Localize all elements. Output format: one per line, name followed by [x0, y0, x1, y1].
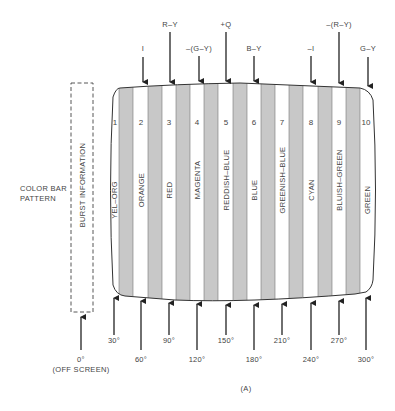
bar-name-yel-org: YEL–ORG	[110, 181, 119, 219]
angle-sublabel-off-screen: (OFF SCREEN)	[53, 365, 110, 374]
bar-name-cyan: CYAN	[307, 179, 316, 200]
bar-number: 9	[337, 118, 342, 127]
bar-number: 2	[139, 118, 144, 127]
top-signal-arrows	[143, 32, 368, 86]
signal-label-b-y: B–Y	[246, 44, 261, 53]
angle-label-240: 240°	[303, 355, 320, 364]
bar-number: 1	[113, 118, 118, 127]
bar-name-magenta: MAGENTA	[193, 161, 202, 200]
angle-label-150: 150°	[218, 336, 235, 345]
signal-label-neg-r-y: –(R–Y)	[326, 20, 352, 29]
bar-name-greenish-blue: GREENISH–BLUE	[278, 147, 287, 214]
bar-number: 5	[224, 118, 229, 127]
bar-name-red: RED	[165, 181, 174, 198]
figure-caption: (A)	[241, 384, 252, 393]
side-label-line2: PATTERN	[20, 194, 56, 203]
bar-name-orange: ORANGE	[137, 173, 146, 207]
angle-label-0: 0°	[77, 355, 85, 364]
bar-name-green: GREEN	[363, 186, 372, 214]
bar-number: 3	[167, 118, 172, 127]
side-label-line1: COLOR BAR	[20, 184, 67, 193]
bar-name-bluish-green: BLUISH–GREEN	[335, 149, 344, 211]
signal-label-g-y: G–Y	[360, 44, 376, 53]
angle-label-90: 90°	[163, 336, 175, 345]
bar-number: 6	[252, 118, 257, 127]
angle-label-180: 180°	[246, 355, 263, 364]
angle-label-270: 270°	[331, 336, 348, 345]
bar-number: 7	[280, 118, 285, 127]
bar-number: 10	[362, 118, 371, 127]
signal-label-neg-i: –I	[308, 44, 315, 53]
angle-label-210: 210°	[274, 336, 291, 345]
angle-label-120: 120°	[189, 355, 206, 364]
stripe-group	[119, 70, 360, 320]
signal-label-i: I	[142, 44, 144, 53]
burst-information-label: BURST INFORMATION	[78, 143, 87, 227]
bar-name-reddish-blue: REDDISH–BLUE	[222, 149, 231, 210]
signal-label-neg-g-y: –(G–Y)	[186, 44, 212, 53]
signal-label-r-y: R–Y	[162, 20, 178, 29]
bar-name-blue: BLUE	[250, 180, 259, 201]
signal-label-plus-q: +Q	[221, 20, 232, 29]
bar-number: 4	[195, 118, 200, 127]
color-bar-diagram: I R–Y –(G–Y) +Q B–Y –I –(R–Y) G–Y 1 2 3 …	[0, 0, 395, 411]
bar-number: 8	[309, 118, 314, 127]
angle-label-60: 60°	[135, 355, 147, 364]
angle-label-300: 300°	[358, 355, 375, 364]
angle-label-30: 30°	[108, 336, 120, 345]
